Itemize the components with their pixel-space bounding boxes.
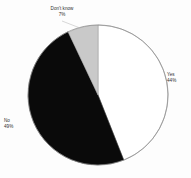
pie-label-dont-know-value: 7% [36, 12, 88, 18]
pie-label-dont-know: Don't know 7% [36, 6, 88, 19]
pie-label-yes: Yes 44% [167, 72, 189, 85]
pie-label-no: No 49% [4, 118, 28, 131]
leader-line-dont-know [62, 21, 80, 28]
pie-chart-graphic [0, 0, 191, 178]
pie-chart-figure: Don't know 7% Yes 44% No 49% [0, 0, 191, 178]
pie-label-yes-value: 44% [167, 78, 189, 84]
pie-label-no-value: 49% [4, 124, 28, 130]
